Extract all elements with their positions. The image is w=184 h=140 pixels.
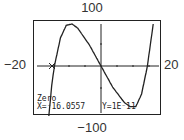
xmin-label: −20 — [4, 57, 26, 72]
ymin-label: −100 — [0, 120, 184, 135]
graph-screen: Zero X=⁻16.0557 Y=1E⁻11 — [33, 20, 161, 115]
xmax-label: 20 — [164, 57, 178, 72]
ymax-label: 100 — [0, 0, 184, 15]
x-readout: X=⁻16.0557 — [37, 103, 85, 111]
y-readout: Y=1E⁻11 — [102, 103, 136, 111]
